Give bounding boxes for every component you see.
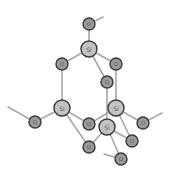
atom-label: O xyxy=(60,61,65,67)
oxygen-atom: O xyxy=(29,116,41,128)
atom-label: O xyxy=(33,119,38,125)
silicon-atom: Si xyxy=(54,100,70,116)
oxygen-atom: O xyxy=(56,58,68,70)
atom-label: O xyxy=(141,120,146,126)
oxygen-atom: O xyxy=(115,153,127,165)
atom-label: Si xyxy=(104,124,110,131)
atom-label: O xyxy=(87,144,92,150)
atom-label: O xyxy=(114,61,119,67)
atom-label: O xyxy=(87,121,92,127)
bonds-layer xyxy=(8,17,162,159)
oxygen-atom: O xyxy=(110,58,122,70)
atom-label: O xyxy=(119,156,124,162)
silicon-atom: Si xyxy=(81,41,97,57)
molecule-diagram: OSiOOOSiSiOOSiOOOO xyxy=(0,0,176,172)
oxygen-atom: O xyxy=(83,118,95,130)
oxygen-atom: O xyxy=(126,135,138,147)
atom-label: O xyxy=(87,21,92,27)
silicon-atom: Si xyxy=(108,100,124,116)
atom-label: Si xyxy=(86,46,92,53)
oxygen-atom: O xyxy=(83,141,95,153)
silicon-atom: Si xyxy=(99,119,115,135)
oxygen-atom: O xyxy=(83,18,95,30)
atom-label: Si xyxy=(59,105,65,112)
atom-label: O xyxy=(105,79,110,85)
atom-label: Si xyxy=(113,105,119,112)
atom-label: O xyxy=(130,138,135,144)
oxygen-atom: O xyxy=(137,117,149,129)
oxygen-atom: O xyxy=(101,76,113,88)
